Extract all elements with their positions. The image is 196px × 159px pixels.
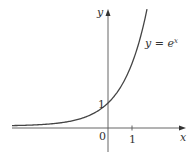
y-tick-label-1: 1 [98,98,105,111]
x-axis-label: x [180,131,187,144]
x-tick-label-1: 1 [129,133,136,146]
exp-curve [12,9,147,125]
function-label-exponent: x [174,37,178,45]
function-label-base: y = e [144,37,174,50]
x-axis-arrow-icon [179,126,186,131]
y-axis-label: y [96,6,104,19]
origin-label: 0 [99,130,106,143]
exponential-graph: y x 0 1 1 y = ex [0,0,196,159]
function-label: y = ex [144,37,178,50]
y-axis-arrow-icon [106,9,111,16]
